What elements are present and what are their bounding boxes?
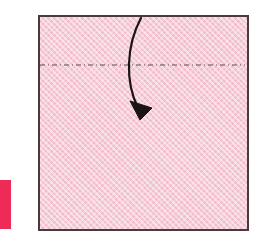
origami-diagram-figure: Square sheet of pink paper with a horizo… — [0, 0, 257, 245]
paper-texture-fill — [40, 17, 247, 229]
figure-caption: Square sheet of pink paper with a horizo… — [0, 0, 1, 1]
page-edge-marker — [0, 180, 11, 229]
paper-square — [38, 15, 249, 231]
